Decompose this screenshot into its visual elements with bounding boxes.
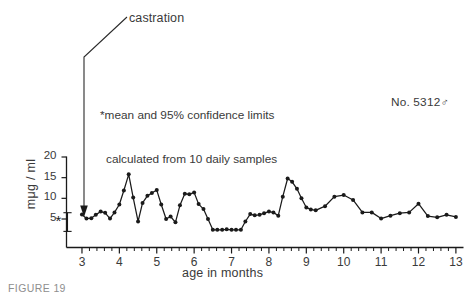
- male-symbol-icon: ♂: [440, 96, 448, 108]
- figure-container: * 5101520 345678910111213 castration *me…: [0, 0, 471, 293]
- figure-caption: FIGURE 19: [8, 282, 66, 293]
- error-bar-marker: *: [56, 212, 72, 231]
- x-axis-title: age in months: [182, 266, 263, 280]
- x-tick-label-13: 13: [443, 255, 469, 269]
- x-tick-label-9: 9: [293, 255, 319, 269]
- confidence-limits-footnote: *mean and 95% confidence limits calculat…: [100, 79, 277, 195]
- footnote-line-2: calculated from 10 daily samples: [100, 152, 277, 167]
- specimen-id-label: No. 5312♂: [377, 81, 449, 123]
- x-tick-label-10: 10: [331, 255, 357, 269]
- specimen-id-text: No. 5312: [391, 95, 440, 109]
- footnote-line-1: *mean and 95% confidence limits: [100, 108, 277, 123]
- castration-label: castration: [129, 11, 184, 25]
- y-axis-title: mμg / ml: [24, 141, 38, 227]
- x-tick-label-3: 3: [69, 255, 95, 269]
- x-tick-label-11: 11: [368, 255, 394, 269]
- x-tick-label-5: 5: [144, 255, 170, 269]
- x-tick-label-12: 12: [405, 255, 431, 269]
- x-tick-label-4: 4: [106, 255, 132, 269]
